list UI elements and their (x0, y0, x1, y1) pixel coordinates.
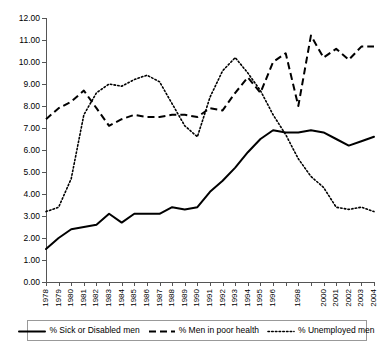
legend-item-unemployed-men: % Unemployed men (268, 326, 375, 335)
legend-swatch-solid-icon (19, 329, 45, 333)
line-chart: 12.0011.0010.009.008.007.006.005.004.003… (0, 0, 389, 346)
legend-label: % Unemployed men (298, 326, 375, 335)
legend-item-sick-or-disabled-men: % Sick or Disabled men (19, 326, 139, 335)
series-line-men-in-poor-health (46, 36, 374, 126)
series-lines (0, 0, 389, 346)
chart-legend: % Sick or Disabled men % Men in poor hea… (27, 320, 367, 341)
legend-label: % Sick or Disabled men (49, 326, 139, 335)
legend-label: % Men in poor health (179, 326, 259, 335)
series-line-unemployed-men (46, 58, 374, 212)
legend-swatch-dotted-icon (268, 329, 294, 333)
legend-swatch-dashed-icon (149, 329, 175, 333)
legend-item-men-in-poor-health: % Men in poor health (149, 326, 259, 335)
